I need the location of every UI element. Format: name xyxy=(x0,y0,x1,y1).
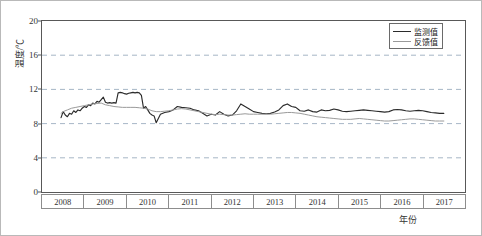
gridlines xyxy=(42,55,465,158)
legend-label-feedback: 反馈值 xyxy=(414,36,438,47)
y-tick-mark xyxy=(38,89,42,90)
series-layer xyxy=(61,92,444,122)
x-axis-year-cells: 2008200920102011201220132014201520162017 xyxy=(41,194,466,209)
x-axis-year-cell: 2014 xyxy=(295,194,337,209)
x-axis-year-cell: 2008 xyxy=(41,194,83,209)
x-axis-year-cell: 2015 xyxy=(338,194,380,209)
y-tick-mark xyxy=(38,21,42,22)
series-line-monitored xyxy=(61,92,444,122)
legend-swatch-monitored xyxy=(393,31,411,32)
y-tick-label: 12 xyxy=(29,84,38,94)
x-axis-year-cell: 2010 xyxy=(126,194,168,209)
legend-swatch-feedback xyxy=(393,41,411,42)
x-axis-year-cell: 2017 xyxy=(423,194,466,209)
y-tick-mark xyxy=(38,192,42,193)
x-axis-year-cell: 2012 xyxy=(211,194,253,209)
chart-legend: 监测值 反馈值 xyxy=(389,23,443,49)
y-axis-title: 温度/℃ xyxy=(13,14,26,94)
y-tick-mark xyxy=(38,55,42,56)
y-tick-mark xyxy=(38,157,42,158)
legend-item-feedback: 反馈值 xyxy=(393,36,438,46)
x-axis-year-cell: 2016 xyxy=(380,194,422,209)
x-axis-year-cell: 2009 xyxy=(83,194,125,209)
x-axis-year-cell: 2011 xyxy=(168,194,210,209)
chart-figure: 温度/℃ 048121620 2008200920102011201220132… xyxy=(0,0,482,236)
legend-item-monitored: 监测值 xyxy=(393,26,438,36)
y-tick-label: 20 xyxy=(29,16,38,26)
y-tick-label: 16 xyxy=(29,50,38,60)
x-axis-title: 年份 xyxy=(399,213,417,226)
y-tick-mark xyxy=(38,123,42,124)
x-axis-year-cell: 2013 xyxy=(253,194,295,209)
